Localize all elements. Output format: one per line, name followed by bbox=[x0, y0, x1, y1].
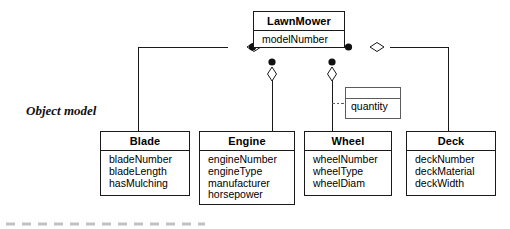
edge-lawnmower-blade bbox=[138, 47, 228, 131]
class-attributes-blade: bladeNumber bladeLength hasMulching bbox=[101, 151, 189, 192]
class-attribute: hasMulching bbox=[109, 178, 189, 190]
class-box-engine[interactable]: Engine engineNumber engineType manufactu… bbox=[199, 131, 295, 205]
class-attribute: wheelType bbox=[313, 166, 391, 178]
class-attribute: deckWidth bbox=[415, 178, 495, 190]
class-attribute: bladeLength bbox=[109, 166, 189, 178]
association-class-attribute: quantity bbox=[346, 99, 400, 114]
aggregation-diamond-engine bbox=[268, 67, 277, 81]
class-attributes-lawnmower: modelNumber bbox=[254, 31, 344, 49]
association-class-quantity[interactable]: quantity bbox=[345, 87, 401, 119]
class-name-wheel: Wheel bbox=[305, 132, 391, 151]
aggregation-diamond-wheel bbox=[328, 67, 337, 81]
class-name-deck: Deck bbox=[407, 132, 495, 151]
class-attribute: horsepower bbox=[208, 189, 294, 201]
association-class-name-compartment bbox=[346, 88, 400, 99]
class-attributes-wheel: wheelNumber wheelType wheelDiam bbox=[305, 151, 391, 192]
endpoint-dot-wheel bbox=[328, 58, 335, 65]
class-attribute: wheelDiam bbox=[313, 178, 391, 190]
object-model-diagram: Object model LawnMower modelNumber quant… bbox=[0, 0, 510, 229]
class-name-engine: Engine bbox=[200, 132, 294, 151]
class-attribute: deckMaterial bbox=[415, 166, 495, 178]
class-attributes-deck: deckNumber deckMaterial deckWidth bbox=[407, 151, 495, 192]
class-box-lawnmower[interactable]: LawnMower modelNumber bbox=[253, 11, 345, 48]
endpoint-dot-deck bbox=[345, 43, 352, 50]
aggregation-diamond-deck bbox=[370, 43, 384, 52]
class-name-lawnmower: LawnMower bbox=[254, 12, 344, 31]
class-attribute: engineType bbox=[208, 166, 294, 178]
class-box-wheel[interactable]: Wheel wheelNumber wheelType wheelDiam bbox=[304, 131, 392, 196]
class-box-deck[interactable]: Deck deckNumber deckMaterial deckWidth bbox=[406, 131, 496, 196]
class-attribute: modelNumber bbox=[262, 34, 344, 46]
class-box-blade[interactable]: Blade bladeNumber bladeLength hasMulchin… bbox=[100, 131, 190, 196]
class-attributes-engine: engineNumber engineType manufacturer hor… bbox=[200, 151, 294, 204]
endpoint-dot-engine bbox=[268, 58, 275, 65]
diagram-caption: Object model bbox=[26, 103, 96, 119]
class-name-blade: Blade bbox=[101, 132, 189, 151]
